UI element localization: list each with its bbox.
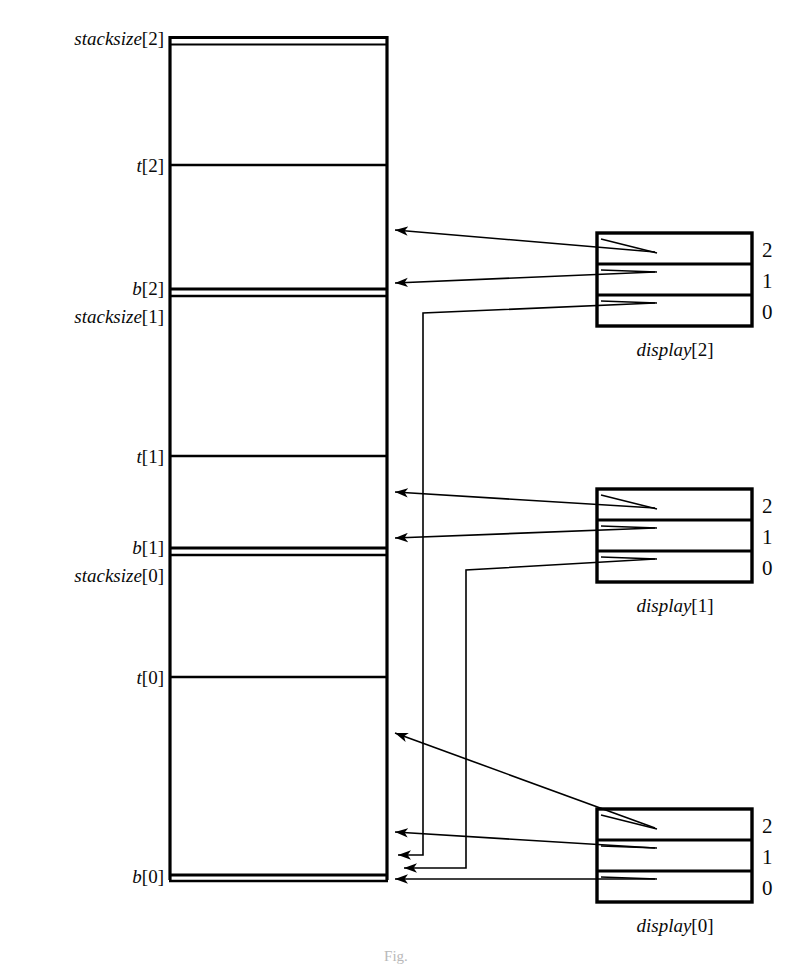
- stack-label-stacksize-1: stacksize[1]: [74, 307, 164, 326]
- stack-label-index: [0]: [142, 667, 164, 688]
- display-caption-var: display: [636, 595, 691, 616]
- stack-label-b-2: b[2]: [132, 279, 164, 298]
- stack-label-stacksize-0: stacksize[0]: [74, 566, 164, 585]
- display-caption-var: display: [636, 915, 691, 936]
- display-1-slot-0-number: 0: [762, 558, 773, 579]
- stack-label-index: [1]: [142, 306, 164, 327]
- stack-label-index: [1]: [142, 446, 164, 467]
- stack-label-index: [2]: [142, 155, 164, 176]
- display-caption-index: [2]: [691, 339, 713, 360]
- connector-display2-slot0: [398, 303, 655, 855]
- stack-label-t-2: t[2]: [137, 156, 164, 175]
- connector-display1-slot1: [395, 528, 655, 538]
- stack-label-index: [0]: [142, 565, 164, 586]
- stack-label-var: stacksize: [74, 565, 142, 586]
- stack-boundary-lines: [169, 38, 388, 882]
- connector-display2-slot1: [395, 272, 655, 283]
- stack-label-var: stacksize: [74, 28, 142, 49]
- stack-label-index: [2]: [142, 28, 164, 49]
- display-caption-index: [1]: [691, 595, 713, 616]
- display-2-box: [597, 233, 752, 326]
- stack-label-var: stacksize: [74, 306, 142, 327]
- stack-label-stacksize-2: stacksize[2]: [74, 29, 164, 48]
- display-1-slot-2-number: 2: [762, 496, 773, 517]
- stack-label-b-1: b[1]: [132, 538, 164, 557]
- display-2-caption: display[2]: [575, 340, 775, 359]
- display-1-caption: display[1]: [575, 596, 775, 615]
- display-caption-index: [0]: [691, 915, 713, 936]
- display-0-connectors: [395, 733, 655, 879]
- display-2-slot-1-number: 1: [762, 271, 773, 292]
- stack-label-b-0: b[0]: [132, 867, 164, 886]
- stack-label-index: [2]: [142, 278, 164, 299]
- display-0-box: [597, 809, 752, 902]
- connector-display1-slot2: [395, 492, 655, 508]
- display-2-connectors: [395, 230, 655, 855]
- figure-caption: Fig.: [0, 948, 792, 965]
- display-1-slot-1-number: 1: [762, 527, 773, 548]
- stack-label-index: [1]: [142, 537, 164, 558]
- stack-label-var: b: [132, 278, 142, 299]
- display-0-slot-1-number: 1: [762, 847, 773, 868]
- display-0-slot-2-number: 2: [762, 816, 773, 837]
- display-0-slot-0-number: 0: [762, 878, 773, 899]
- display-2-slot-2-number: 2: [762, 240, 773, 261]
- stack-label-t-1: t[1]: [137, 447, 164, 466]
- stack-column: [170, 36, 387, 880]
- display-caption-var: display: [636, 339, 691, 360]
- stack-label-var: b: [132, 866, 142, 887]
- display-0-caption: display[0]: [575, 916, 775, 935]
- stack-label-t-0: t[0]: [137, 668, 164, 687]
- display-2-slot-0-number: 0: [762, 302, 773, 323]
- display-1-box: [597, 489, 752, 582]
- stack-label-index: [0]: [142, 866, 164, 887]
- connector-display0-slot2: [395, 733, 655, 828]
- display-1-connectors: [395, 492, 655, 868]
- stack-label-var: b: [132, 537, 142, 558]
